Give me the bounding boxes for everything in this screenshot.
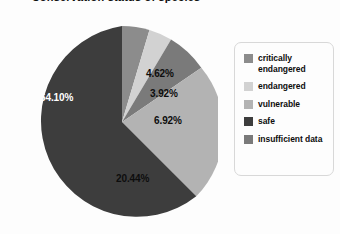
pie-svg [26, 26, 218, 218]
legend-label: endangered [258, 81, 306, 92]
legend-label: insufficient data [258, 134, 322, 145]
slice-value-critically-endangered: 4.62% [146, 68, 174, 79]
legend-swatch-icon [244, 82, 253, 91]
legend-label: critically endangered [258, 53, 329, 74]
slice-value-endangered: 3.92% [150, 88, 178, 99]
slice-value-insufficient-data: 20.44% [116, 173, 149, 184]
legend-swatch-icon [244, 117, 253, 126]
chart-legend: critically endangered endangered vulnera… [234, 42, 334, 176]
legend-label: safe [258, 116, 275, 127]
pie-chart: 4.62% 3.92% 6.92% 20.44% 64.10% [26, 26, 218, 218]
chart-title: Conservation status of species [0, 0, 232, 4]
legend-swatch-icon [244, 135, 253, 144]
legend-item-insufficient-data[interactable]: insufficient data [244, 134, 329, 145]
legend-item-vulnerable[interactable]: vulnerable [244, 99, 329, 110]
legend-swatch-icon [244, 54, 253, 63]
slice-value-vulnerable: 6.92% [154, 115, 182, 126]
chart-canvas: Conservation status of species 4.62% 3.9… [0, 0, 340, 234]
legend-item-safe[interactable]: safe [244, 116, 329, 127]
legend-item-endangered[interactable]: endangered [244, 81, 329, 92]
legend-item-critically-endangered[interactable]: critically endangered [244, 53, 329, 74]
legend-label: vulnerable [258, 99, 300, 110]
legend-swatch-icon [244, 100, 253, 109]
slice-value-safe: 64.10% [40, 92, 73, 103]
